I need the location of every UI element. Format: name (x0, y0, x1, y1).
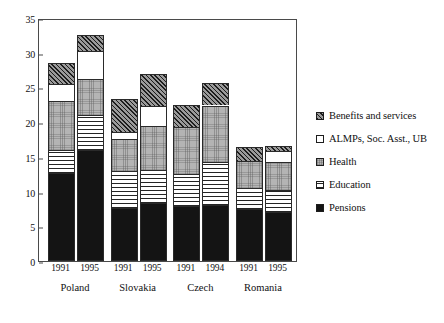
bar-segment-health[interactable] (77, 79, 104, 115)
legend-swatch-horizontal-lines-icon (316, 181, 324, 189)
bar-segment-benefits[interactable] (77, 35, 104, 50)
bar-segment-education[interactable] (111, 171, 138, 208)
bar-poland-1991[interactable] (48, 63, 75, 261)
legend-swatch-solid-black-icon (316, 204, 324, 212)
bar-segment-pensions[interactable] (236, 209, 263, 261)
bar-segment-almps[interactable] (265, 151, 292, 162)
bar-segment-benefits[interactable] (202, 83, 229, 105)
legend-label: Education (329, 179, 371, 191)
bar-segment-health[interactable] (202, 106, 229, 163)
bar-segment-education[interactable] (202, 162, 229, 204)
legend-swatch-white-icon (316, 135, 324, 143)
legend-swatch-diagonal-hatch-icon (316, 112, 324, 120)
bar-segment-benefits[interactable] (48, 63, 75, 84)
y-tick-label: 20 (25, 119, 39, 129)
bar-segment-health[interactable] (111, 139, 138, 171)
stacked-bar-chart-figure: 05101520253035 19911995Poland19911995Slo… (0, 0, 444, 323)
bar-segment-benefits[interactable] (236, 147, 263, 161)
bar-segment-benefits[interactable] (173, 105, 200, 127)
y-tick-label: 25 (25, 84, 39, 94)
bar-segment-pensions[interactable] (111, 208, 138, 261)
y-tick-label: 5 (30, 223, 39, 233)
legend-label: Benefits and services (329, 110, 416, 122)
bar-segment-education[interactable] (77, 115, 104, 150)
bar-czech-1991[interactable] (173, 105, 200, 261)
bar-segment-benefits[interactable] (111, 99, 138, 132)
legend-label: Health (329, 156, 356, 168)
bar-segment-health[interactable] (236, 161, 263, 188)
bar-segment-education[interactable] (236, 188, 263, 209)
bar-slovakia-1995[interactable] (140, 74, 167, 261)
bar-segment-education[interactable] (140, 170, 167, 203)
bar-segment-health[interactable] (140, 126, 167, 170)
plot-area: 05101520253035 (38, 19, 297, 262)
legend-swatch-gray-stipple-icon (316, 158, 324, 166)
chart-legend: Benefits and servicesALMPs, Soc. Asst., … (316, 104, 442, 219)
x-axis-labels: 19911995Poland19911995Slovakia19911994Cz… (38, 264, 297, 314)
x-country-label: Romania (218, 283, 308, 294)
bar-segment-benefits[interactable] (140, 74, 167, 107)
legend-item-pensions[interactable]: Pensions (316, 196, 442, 219)
legend-item-health[interactable]: Health (316, 150, 442, 173)
bar-segment-pensions[interactable] (48, 173, 75, 261)
x-year-label: 1995 (258, 264, 298, 274)
y-tick-label: 15 (25, 154, 39, 164)
bar-group-slovakia (111, 20, 167, 261)
legend-item-almps[interactable]: ALMPs, Soc. Asst., UB (316, 127, 442, 150)
bar-segment-health[interactable] (265, 162, 292, 190)
bar-segment-pensions[interactable] (140, 203, 167, 261)
bar-segment-health[interactable] (48, 101, 75, 150)
bar-segment-almps[interactable] (77, 51, 104, 79)
bar-poland-1995[interactable] (77, 35, 104, 261)
bar-segment-pensions[interactable] (265, 212, 292, 261)
bar-segment-pensions[interactable] (202, 205, 229, 261)
bars-layer (39, 20, 296, 261)
bar-czech-1994[interactable] (202, 83, 229, 261)
bar-group-romania (236, 20, 292, 261)
bar-romania-1995[interactable] (265, 146, 292, 261)
bar-slovakia-1991[interactable] (111, 99, 138, 261)
bar-group-czech (173, 20, 229, 261)
bar-segment-education[interactable] (265, 190, 292, 213)
legend-label: ALMPs, Soc. Asst., UB (329, 133, 427, 145)
bar-segment-pensions[interactable] (173, 206, 200, 261)
bar-segment-education[interactable] (48, 150, 75, 173)
legend-item-education[interactable]: Education (316, 173, 442, 196)
bar-segment-health[interactable] (173, 127, 200, 174)
y-tick-label: 35 (25, 15, 39, 25)
legend-label: Pensions (329, 202, 366, 214)
bar-segment-almps[interactable] (48, 84, 75, 101)
y-tick-label: 30 (25, 50, 39, 60)
bar-segment-benefits[interactable] (265, 146, 292, 151)
bar-group-poland (48, 20, 104, 261)
bar-segment-pensions[interactable] (77, 150, 104, 261)
bar-segment-almps[interactable] (140, 106, 167, 125)
legend-item-benefits[interactable]: Benefits and services (316, 104, 442, 127)
bar-segment-education[interactable] (173, 174, 200, 206)
bar-romania-1991[interactable] (236, 147, 263, 261)
y-tick-label: 10 (25, 189, 39, 199)
bar-segment-almps[interactable] (111, 132, 138, 139)
